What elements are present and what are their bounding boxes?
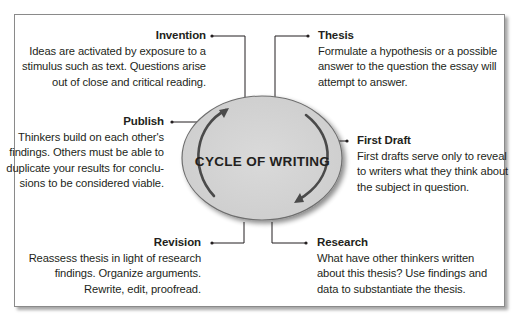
dot-publish: [170, 120, 173, 123]
stage-text-line: What have other thinkers written: [317, 251, 487, 267]
stage-text-line: attempt to answer.: [318, 75, 497, 91]
stage-text-line: Formulate a hypothesis or a possible: [318, 44, 497, 60]
stage-text-line: Rewrite, edit, proofread.: [29, 282, 201, 298]
dot-thesis: [306, 34, 309, 37]
dot-first-draft: [345, 139, 348, 142]
stage-text-line: findings. Others must be able to: [6, 145, 164, 161]
connector-invention: [212, 36, 245, 100]
stage-title: Publish: [6, 114, 164, 130]
stage-publish: Publish Thinkers build on each other's f…: [6, 114, 164, 192]
stage-text-line: sions to be considered viable.: [6, 176, 164, 192]
stage-title: Revision: [29, 235, 201, 251]
stage-text-line: to writers what they think about: [357, 164, 508, 180]
stage-text-line: answer to the question the essay will: [318, 59, 497, 75]
stage-text-line: Reassess thesis in light of research: [29, 251, 201, 267]
stage-text-line: First drafts serve only to reveal: [357, 149, 508, 165]
stage-invention: Invention Ideas are activated by exposur…: [22, 28, 206, 90]
dot-revision: [210, 241, 213, 244]
stage-title: Research: [317, 235, 487, 251]
connector-revision: [212, 222, 244, 243]
dot-invention: [210, 34, 213, 37]
stage-thesis: Thesis Formulate a hypothesis or a possi…: [318, 28, 497, 90]
stage-text-line: out of close and critical reading.: [22, 75, 206, 91]
stage-text-line: Ideas are activated by exposure to a: [22, 44, 206, 60]
stage-title: First Draft: [357, 133, 508, 149]
dot-research: [304, 241, 307, 244]
stage-revision: Revision Reassess thesis in light of res…: [29, 235, 201, 297]
stage-text-line: stimulus such as text. Questions arise: [22, 59, 206, 75]
stage-first-draft: First Draft First drafts serve only to r…: [357, 133, 508, 195]
stage-title: Thesis: [318, 28, 497, 44]
stage-text-line: the subject in question.: [357, 180, 508, 196]
connector-thesis: [275, 36, 308, 100]
stage-text-line: Thinkers build on each other's: [6, 130, 164, 146]
center-title: CYCLE OF WRITING: [182, 154, 343, 169]
stage-text-line: data to substantiate the thesis.: [317, 282, 487, 298]
connector-research: [272, 222, 306, 243]
stage-text-line: about this thesis? Use findings and: [317, 266, 487, 282]
stage-text-line: duplicate your results for conclu-: [6, 161, 164, 177]
stage-title: Invention: [22, 28, 206, 44]
stage-research: Research What have other thinkers writte…: [317, 235, 487, 297]
stage-text-line: findings. Organize arguments.: [29, 266, 201, 282]
